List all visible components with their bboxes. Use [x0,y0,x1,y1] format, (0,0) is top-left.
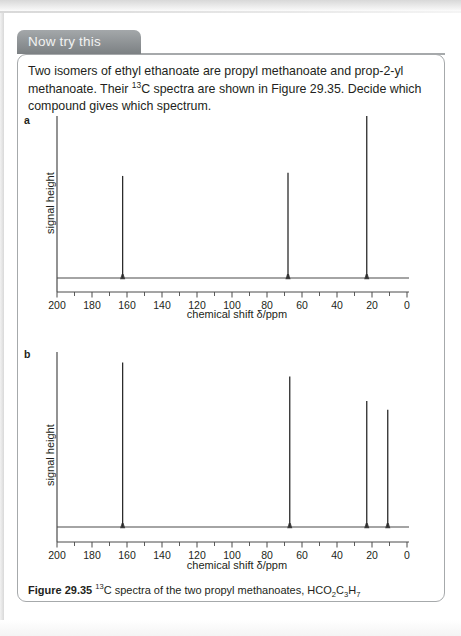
activity-intro-text: Two isomers of ethyl ethanoate are propy… [28,63,440,116]
now-try-this-tab: Now try this [17,30,141,54]
x-tick-label: 20 [366,299,378,311]
spectrum-peak [120,176,125,279]
page-top-band-edge [0,11,461,13]
x-tick-label: 200 [48,549,66,561]
x-tick-label: 20 [366,549,378,561]
spectrum-chart-a: a signal height 200180160140120100806040… [22,112,442,327]
x-tick-label: 180 [83,549,101,561]
x-tick-label: 200 [48,299,66,311]
activity-box-top-border [141,53,445,54]
chart-b-x-axis-label: chemical shift δ/ppm [137,559,337,571]
caption-superscript-13: 13 [95,582,103,591]
chart-b-plot-area: 200180160140120100806040200 [22,346,442,578]
figure-caption: Figure 29.35 13C spectra of the two prop… [28,583,428,598]
spectrum-peak [364,116,369,279]
x-tick-label: 180 [83,299,101,311]
x-tick-label: 0 [404,549,410,561]
spectrum-peak [364,401,369,528]
chart-a-x-axis-label: chemical shift δ/ppm [137,308,337,320]
page-bottom-fade [0,620,461,636]
caption-subscript-7: 7 [356,590,360,599]
spectrum-peak [285,173,290,280]
caption-text-b: C [336,584,344,596]
x-tick-label: 160 [118,299,136,311]
x-tick-label: 160 [118,549,136,561]
figure-caption-number: Figure 29.35 [28,584,92,596]
spectrum-peak [287,377,292,529]
intro-superscript-13: 13 [132,79,141,89]
page-left-rail [0,13,4,636]
caption-text-c: H [348,584,356,596]
chart-a-plot-area: 200180160140120100806040200 [22,112,442,327]
caption-text-a: C spectra of the two propyl methanoates,… [104,584,332,596]
spectrum-chart-b: b signal height 200180160140120100806040… [22,346,442,578]
now-try-this-tab-label: Now try this [28,34,101,49]
x-tick-label: 0 [404,299,410,311]
spectrum-peak [385,410,390,528]
page-root: Now try this Two isomers of ethyl ethano… [0,0,461,636]
spectrum-peak [120,363,125,529]
